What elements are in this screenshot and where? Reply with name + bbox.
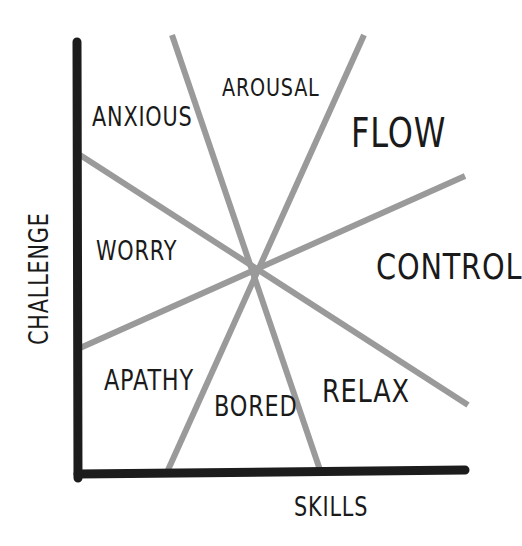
region-control: CONTROL — [376, 246, 522, 287]
x-axis-label: SKILLS — [294, 492, 368, 522]
x-axis — [78, 470, 465, 474]
region-apathy: APATHY — [104, 364, 194, 397]
region-worry: WORRY — [96, 236, 177, 266]
y-axis — [77, 42, 78, 478]
region-arousal: AROUSAL — [222, 74, 320, 102]
region-bored: BORED — [214, 390, 298, 423]
region-flow: FLOW — [351, 110, 446, 156]
y-axis-label: CHALLENGE — [24, 212, 54, 345]
region-relax: RELAX — [322, 372, 410, 410]
region-anxious: ANXIOUS — [92, 102, 193, 132]
